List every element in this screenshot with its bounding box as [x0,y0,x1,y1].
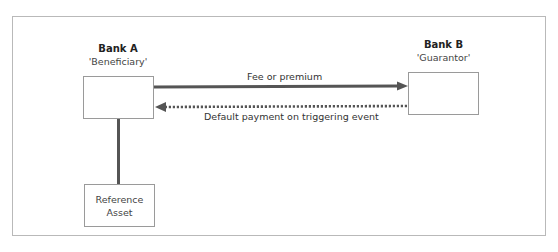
fee-arrow [154,82,408,91]
arrowhead-left-icon [155,102,166,112]
fee-label: Fee or premium [247,71,322,82]
connector-lines [0,0,558,252]
arrowhead-right-icon [397,82,408,91]
default-payment-label: Default payment on triggering event [204,111,379,122]
